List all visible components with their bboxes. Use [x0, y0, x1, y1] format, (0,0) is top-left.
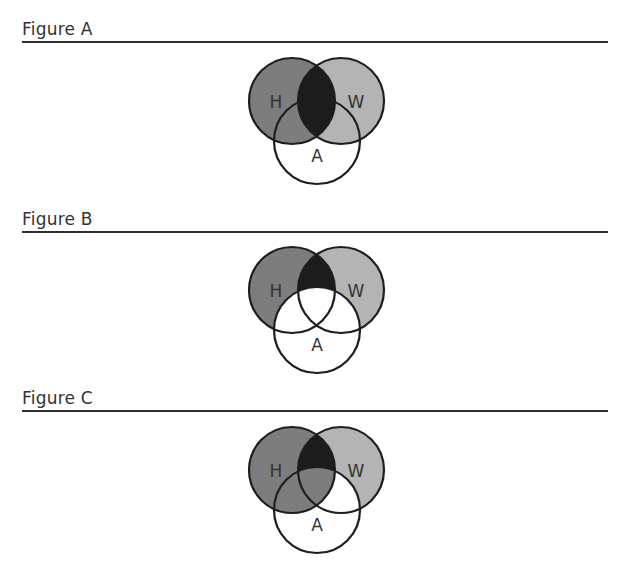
figure-b-venn-diagram: HWA	[0, 244, 629, 384]
figure-c-venn-diagram: HWA	[0, 424, 629, 564]
figure-c-title: Figure C	[22, 388, 93, 408]
circle-label-h: H	[270, 92, 283, 112]
figure-a-divider	[22, 41, 608, 43]
circle-label-w: W	[348, 281, 365, 301]
figure-b-title: Figure B	[22, 209, 93, 229]
circle-label-a: A	[311, 515, 323, 535]
circle-label-h: H	[270, 461, 283, 481]
circle-label-w: W	[348, 92, 365, 112]
circle-label-w: W	[348, 461, 365, 481]
figure-a-title: Figure A	[22, 19, 93, 39]
circle-label-a: A	[311, 146, 323, 166]
figure-b-divider	[22, 231, 608, 233]
circle-label-h: H	[270, 281, 283, 301]
figure-a-venn-diagram: HWA	[0, 55, 629, 195]
circle-label-a: A	[311, 335, 323, 355]
figure-c-divider	[22, 410, 608, 412]
